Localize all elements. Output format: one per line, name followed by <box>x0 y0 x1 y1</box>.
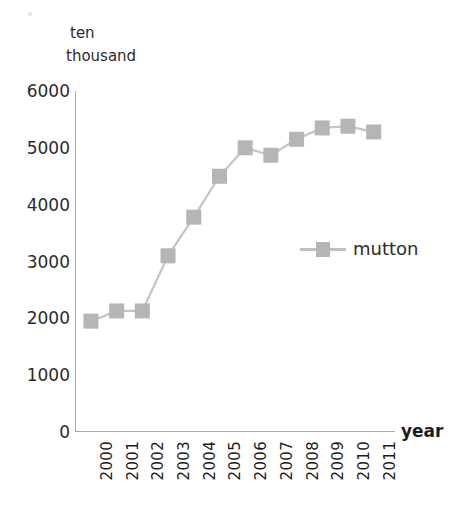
y-axis-unit-line1: ten <box>66 22 136 45</box>
legend-square-marker-icon <box>316 242 330 257</box>
y-axis-tick-label: 2000 <box>10 308 70 328</box>
x-axis-tick-label: 2010 <box>355 441 373 501</box>
data-point-marker <box>109 303 124 318</box>
data-point-marker <box>263 148 278 163</box>
y-axis-tick-label: 5000 <box>10 138 70 158</box>
y-axis-tick-label: 6000 <box>10 81 70 101</box>
x-axis-title: year <box>401 421 443 441</box>
scan-speck <box>28 12 32 16</box>
data-point-marker <box>366 124 381 139</box>
legend-label-mutton: mutton <box>353 238 418 259</box>
x-axis-tick-label: 2009 <box>329 441 347 501</box>
y-axis-unit-label: ten thousand <box>66 22 136 68</box>
x-axis-tick-label: 2007 <box>278 441 296 501</box>
data-point-marker <box>212 169 227 184</box>
data-point-marker <box>83 314 98 329</box>
data-point-marker <box>238 140 253 155</box>
y-axis-tick-label: 1000 <box>10 365 70 385</box>
y-axis-tick-label: 3000 <box>10 252 70 272</box>
data-point-marker <box>340 119 355 134</box>
x-axis-tick-label: 2005 <box>226 441 244 501</box>
series-line <box>91 126 374 321</box>
data-point-marker <box>186 210 201 225</box>
x-axis-tick-label: 2008 <box>304 441 322 501</box>
x-axis-tick-label: 2003 <box>175 441 193 501</box>
data-point-marker <box>289 132 304 147</box>
plot-area <box>75 91 395 432</box>
data-point-marker <box>315 120 330 135</box>
x-axis-tick-label: 2006 <box>252 441 270 501</box>
legend-swatch-mutton <box>300 240 346 258</box>
data-point-marker <box>135 303 150 318</box>
line-chart: ten thousand 0100020003000400050006000 2… <box>0 0 457 528</box>
x-axis-tick-label: 2004 <box>201 441 219 501</box>
x-axis-tick-label: 2000 <box>98 441 116 501</box>
x-axis-tick-label: 2002 <box>149 441 167 501</box>
y-axis-tick-label: 4000 <box>10 195 70 215</box>
data-point-marker <box>161 248 176 263</box>
chart-legend: mutton <box>300 238 418 259</box>
series-mutton <box>75 91 395 432</box>
x-axis-tick-label: 2001 <box>124 441 142 501</box>
y-axis-tick-label: 0 <box>10 422 70 442</box>
x-axis-tick-label: 2011 <box>381 441 399 501</box>
y-axis-unit-line2: thousand <box>66 45 136 68</box>
